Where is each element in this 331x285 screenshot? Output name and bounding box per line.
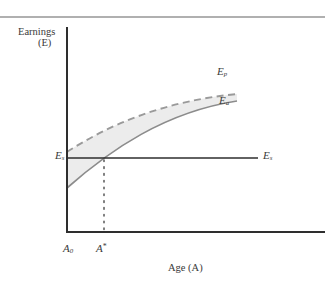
x-tick-label-astar: A* — [96, 243, 107, 255]
y-axis-title: Earnings (E) — [18, 26, 55, 48]
y-tick-label-es-main: E — [55, 149, 62, 161]
y-axis-title-line1: Earnings — [18, 26, 55, 37]
curve-label-ea-sub: a — [226, 99, 229, 106]
y-tick-label-es: Es — [55, 150, 64, 162]
y-tick-label-es-sub: s — [62, 154, 65, 161]
x-tick-label-a0-main: A — [63, 242, 70, 254]
curve-label-es: Es — [263, 150, 272, 162]
earnings-age-figure: Earnings (E) Age (A) Ep Ea Es Es A0 A* — [0, 0, 331, 285]
curve-label-ep-sub: p — [224, 70, 227, 77]
x-axis-title: Age (A) — [168, 262, 203, 273]
x-tick-label-astar-main: A — [96, 242, 103, 254]
curve-label-ep-main: E — [217, 65, 224, 77]
earnings-gap-shaded-region — [67, 94, 237, 188]
x-tick-label-a0-sub: 0 — [70, 247, 73, 254]
curve-label-es-sub: s — [270, 154, 273, 161]
curve-label-ea-main: E — [219, 94, 226, 106]
x-tick-label-astar-sup: * — [103, 242, 107, 251]
curve-label-ea: Ea — [219, 95, 229, 107]
x-tick-label-a0: A0 — [63, 243, 73, 255]
curve-label-ep: Ep — [217, 66, 227, 78]
curve-label-es-main: E — [263, 149, 270, 161]
y-axis-title-line2: (E) — [18, 37, 55, 48]
